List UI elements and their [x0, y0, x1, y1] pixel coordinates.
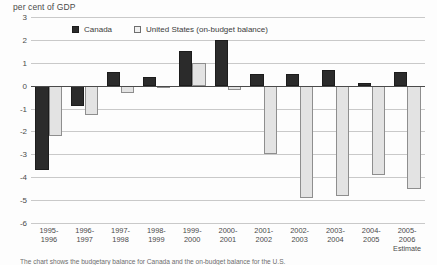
x-label-line2: 1997 [67, 235, 103, 244]
bar-canada-5 [215, 40, 228, 86]
y-axis-title: per cent of GDP [13, 2, 75, 12]
y-axis-tick-label: -6 [20, 219, 27, 228]
bar-canada-8 [322, 70, 335, 86]
x-label-line1: 2004- [353, 226, 389, 235]
united-states-swatch-icon [134, 26, 141, 33]
x-label-line2: 2004 [318, 235, 354, 244]
y-axis-tick-label: 0 [23, 81, 27, 90]
y-axis-tick-label: 3 [23, 13, 27, 22]
bar-canada-3 [143, 77, 156, 86]
x-axis-labels: 1995-19961996-19971997-19981998-19991999… [31, 226, 425, 258]
x-label-line2: 2000 [174, 235, 210, 244]
x-label-line1: 2001- [246, 226, 282, 235]
bar-united-states-0 [49, 86, 62, 136]
x-label-line1: 1995- [31, 226, 67, 235]
y-axis-tick-label: -5 [20, 196, 27, 205]
chart-figure: per cent of GDP Canada United States (on… [0, 0, 437, 265]
bar-united-states-8 [336, 86, 349, 196]
x-axis-label-8: 2003-2004 [318, 226, 354, 244]
x-axis-label-5: 2000-2001 [210, 226, 246, 244]
x-axis-label-7: 2002-2003 [282, 226, 318, 244]
x-axis-label-2: 1997-1998 [103, 226, 139, 244]
x-label-estimate-annotation: Estimate [389, 244, 425, 253]
legend-item-canada: Canada [72, 25, 112, 34]
bar-united-states-7 [300, 86, 313, 198]
canada-swatch-icon [72, 26, 79, 33]
x-axis-label-6: 2001-2002 [246, 226, 282, 244]
x-axis-label-4: 1999-2000 [174, 226, 210, 244]
y-axis-tick-label: -2 [20, 127, 27, 136]
x-label-line2: 2003 [282, 235, 318, 244]
bar-canada-0 [35, 86, 48, 171]
x-label-line1: 2000- [210, 226, 246, 235]
x-label-line1: 2003- [318, 226, 354, 235]
gridline--6: -6 [31, 223, 425, 224]
bar-canada-7 [286, 74, 299, 85]
x-label-line1: 2005- [389, 226, 425, 235]
x-axis-label-9: 2004-2005 [353, 226, 389, 244]
y-axis-tick-label: -3 [20, 150, 27, 159]
x-axis-label-3: 1998-1999 [138, 226, 174, 244]
x-axis-label-10: 2005-2006Estimate [389, 226, 425, 254]
bar-united-states-9 [372, 86, 385, 175]
x-label-line2: 2005 [353, 235, 389, 244]
y-axis-tick-label: -4 [20, 173, 27, 182]
x-label-line2: 2006 [389, 235, 425, 244]
x-label-line1: 1996- [67, 226, 103, 235]
bar-united-states-10 [407, 86, 420, 189]
x-label-line1: 1999- [174, 226, 210, 235]
x-label-line2: 2001 [210, 235, 246, 244]
plot-area: 3210-1-2-3-4-5-6 [31, 17, 425, 223]
bar-united-states-1 [85, 86, 98, 116]
legend-item-united-states: United States (on-budget balance) [134, 25, 268, 34]
y-axis-tick-label: 1 [23, 58, 27, 67]
bar-canada-10 [394, 72, 407, 86]
bar-canada-4 [179, 51, 192, 85]
x-axis-label-0: 1995-1996 [31, 226, 67, 244]
bar-canada-6 [250, 74, 263, 85]
bar-canada-2 [107, 72, 120, 86]
chart-footnote: The chart shows the budgetary balance fo… [20, 258, 435, 265]
bar-united-states-4 [192, 63, 205, 86]
legend-label-united-states: United States (on-budget balance) [146, 25, 268, 34]
chart-legend: Canada United States (on-budget balance) [72, 25, 268, 34]
x-label-line1: 1998- [138, 226, 174, 235]
x-label-line1: 2002- [282, 226, 318, 235]
legend-label-canada: Canada [84, 25, 112, 34]
x-label-line2: 1996 [31, 235, 67, 244]
x-label-line2: 1999 [138, 235, 174, 244]
x-label-line1: 1997- [103, 226, 139, 235]
x-axis-label-1: 1996-1997 [67, 226, 103, 244]
bar-series-container [31, 17, 425, 223]
y-axis-tick-label: -1 [20, 104, 27, 113]
bar-united-states-6 [264, 86, 277, 155]
x-label-line2: 2002 [246, 235, 282, 244]
y-axis-tick-label: 2 [23, 35, 27, 44]
x-label-line2: 1998 [103, 235, 139, 244]
zero-axis-line: 0 [31, 86, 425, 88]
bar-canada-1 [71, 86, 84, 107]
